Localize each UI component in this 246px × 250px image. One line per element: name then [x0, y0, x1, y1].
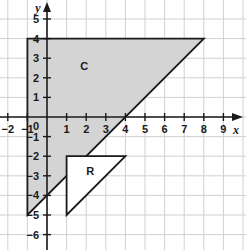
y-tick-label: 1: [33, 91, 39, 103]
coordinate-plane-figure: −2−112345678954321−1−2−3−4−5−60 CR xy: [0, 0, 246, 250]
x-tick-label: 5: [142, 123, 148, 135]
triangle-c: [27, 39, 203, 215]
x-axis-label: x: [232, 123, 239, 137]
y-tick-label: 3: [33, 52, 39, 64]
y-tick-label: −2: [26, 150, 39, 162]
x-axis-arrow-icon: [232, 113, 243, 121]
x-tick-label: 2: [83, 123, 89, 135]
x-tick-label: 3: [103, 123, 109, 135]
coordinate-plane-svg: −2−112345678954321−1−2−3−4−5−60 CR xy: [0, 0, 246, 250]
shapes-layer: [27, 39, 203, 215]
y-axis-label: y: [33, 1, 41, 15]
y-tick-label: −5: [26, 209, 39, 221]
y-tick-label: −1: [26, 131, 39, 143]
origin-label: 0: [33, 120, 39, 132]
x-tick-label: 6: [162, 123, 168, 135]
x-tick-label: 1: [64, 123, 70, 135]
y-tick-label: 2: [33, 72, 39, 84]
x-tick-label: 9: [220, 123, 226, 135]
x-tick-label: 4: [122, 123, 129, 135]
triangle-r: [67, 156, 126, 215]
x-tick-label: −2: [2, 123, 15, 135]
y-tick-label: 4: [33, 33, 40, 45]
x-tick-label: 8: [201, 123, 207, 135]
y-tick-label: −3: [26, 170, 39, 182]
y-axis-arrow-icon: [43, 2, 51, 12]
shape-label-r: R: [86, 165, 94, 177]
x-tick-label: 7: [181, 123, 187, 135]
shape-label-c: C: [80, 60, 88, 72]
y-tick-label: −6: [26, 229, 39, 241]
y-tick-label: −4: [26, 189, 39, 201]
